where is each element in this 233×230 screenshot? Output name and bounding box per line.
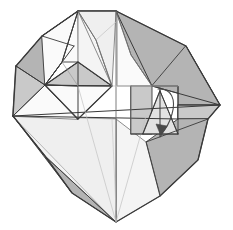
origami-figure-root: Origami folding step diagram Grayscale l… bbox=[0, 0, 233, 230]
origami-diagram: Origami folding step diagram Grayscale l… bbox=[0, 0, 233, 230]
